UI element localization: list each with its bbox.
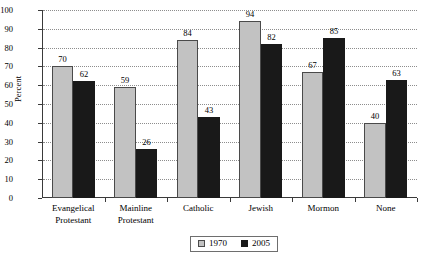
bar-value-label: 82 (255, 33, 289, 42)
y-tick-label: 50 (0, 100, 13, 109)
y-tick-label: 10 (0, 175, 13, 184)
bar-1970-jewish (239, 21, 261, 198)
y-axis-title: Percent (13, 49, 23, 129)
bar-value-label: 63 (380, 69, 414, 78)
legend-label: 1970 (209, 239, 227, 248)
x-category-label: None (347, 203, 426, 215)
bar-chart: Percent 0102030405060708090100 706259268… (0, 0, 432, 261)
y-tick-label: 100 (0, 6, 13, 15)
legend-item-1970: 1970 (198, 239, 227, 248)
bar-value-label: 62 (67, 70, 101, 79)
bar-1970-none (364, 123, 386, 198)
bar-1970-catholic (177, 40, 199, 198)
bar-value-label: 26 (130, 138, 164, 147)
bar-2005-jewish (261, 44, 283, 198)
x-tick-mark (292, 198, 293, 202)
y-tick-label: 20 (0, 156, 13, 165)
x-tick-mark (417, 198, 418, 202)
legend-item-2005: 2005 (241, 239, 270, 248)
bars-layer (42, 10, 417, 198)
x-tick-mark (105, 198, 106, 202)
bar-value-label: 85 (317, 27, 351, 36)
bar-value-label: 84 (171, 29, 205, 38)
x-category-line: Protestant (97, 215, 176, 227)
chart-legend: 1970 2005 (190, 236, 278, 252)
bar-value-label: 70 (46, 55, 80, 64)
y-tick-label: 60 (0, 81, 13, 90)
bar-value-label: 67 (296, 61, 330, 70)
bar-value-label: 40 (358, 112, 392, 121)
legend-label: 2005 (252, 239, 270, 248)
x-category-line: None (347, 203, 426, 215)
bar-2005-catholic (198, 117, 220, 198)
bar-value-label: 43 (192, 106, 226, 115)
y-tick-label: 80 (0, 44, 13, 53)
bar-2005-evangelical-protestant (73, 81, 95, 198)
y-tick-label: 0 (0, 194, 13, 203)
bar-1970-evangelical-protestant (52, 66, 74, 198)
y-tick-label: 70 (0, 62, 13, 71)
bar-value-label: 94 (233, 10, 267, 19)
y-tick-label: 30 (0, 138, 13, 147)
x-tick-mark (167, 198, 168, 202)
bar-value-label: 59 (108, 76, 142, 85)
x-tick-mark (355, 198, 356, 202)
x-tick-mark (230, 198, 231, 202)
bar-2005-mainline-protestant (136, 149, 158, 198)
y-tick-mark (38, 198, 42, 199)
y-tick-label: 90 (0, 25, 13, 34)
black-square-icon (241, 240, 248, 247)
gray-square-icon (198, 240, 205, 247)
y-tick-label: 40 (0, 119, 13, 128)
bar-1970-mormon (302, 72, 324, 198)
bar-2005-none (386, 80, 408, 198)
